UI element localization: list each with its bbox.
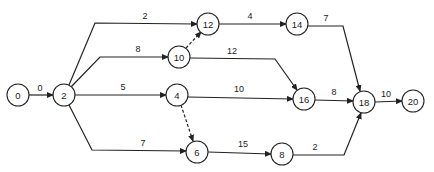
arrow-line bbox=[188, 97, 293, 99]
edge-duration-label: 10 bbox=[381, 89, 391, 99]
node-label: 20 bbox=[408, 96, 419, 107]
edge-duration-label: 8 bbox=[135, 44, 140, 54]
edge-4-16: 10 bbox=[188, 84, 293, 99]
edge-duration-label: 5 bbox=[120, 82, 125, 92]
node-label: 4 bbox=[174, 90, 179, 101]
node-label: 14 bbox=[292, 19, 303, 30]
edge-2-4: 5 bbox=[75, 82, 166, 95]
edge-6-8: 15 bbox=[208, 139, 271, 154]
edge-duration-label: 0 bbox=[37, 83, 42, 93]
node-12: 12 bbox=[197, 13, 219, 35]
arrow-line bbox=[375, 101, 402, 102]
edge-8-18: 2 bbox=[293, 113, 361, 155]
arrow-line bbox=[293, 113, 361, 155]
edge-18-20: 10 bbox=[375, 89, 402, 102]
node-2: 2 bbox=[53, 84, 75, 106]
node-label: 16 bbox=[299, 94, 310, 105]
edge-duration-label: 12 bbox=[227, 46, 237, 56]
edge-2-6: 7 bbox=[69, 105, 186, 151]
node-label: 8 bbox=[279, 149, 284, 160]
node-label: 10 bbox=[174, 52, 185, 63]
edge-12-14: 4 bbox=[219, 11, 286, 24]
node-14: 14 bbox=[286, 13, 308, 35]
arrow-line bbox=[69, 105, 186, 151]
network-diagram: 02857471210810152 02121410416182068 bbox=[0, 0, 434, 172]
nodes-layer: 02121410416182068 bbox=[7, 13, 424, 165]
node-label: 12 bbox=[203, 19, 214, 30]
edge-duration-label: 7 bbox=[140, 138, 145, 148]
edge-0-2: 0 bbox=[29, 83, 53, 95]
edge-duration-label: 2 bbox=[312, 142, 317, 152]
arrow-line bbox=[186, 32, 201, 48]
node-4: 4 bbox=[166, 84, 188, 106]
arrow-line bbox=[181, 105, 193, 141]
edge-duration-label: 4 bbox=[247, 11, 252, 21]
node-8: 8 bbox=[271, 143, 293, 165]
edge-duration-label: 2 bbox=[142, 11, 147, 21]
node-10: 10 bbox=[168, 46, 190, 68]
edge-duration-label: 8 bbox=[331, 87, 336, 97]
edge-16-18: 8 bbox=[315, 87, 353, 101]
node-label: 2 bbox=[61, 90, 66, 101]
node-0: 0 bbox=[7, 84, 29, 106]
edge-4-6 bbox=[181, 105, 193, 141]
edge-duration-label: 7 bbox=[323, 13, 328, 23]
node-18: 18 bbox=[353, 91, 375, 113]
edge-duration-label: 10 bbox=[234, 84, 244, 94]
edge-14-18: 7 bbox=[308, 13, 360, 91]
edge-10-12 bbox=[186, 32, 201, 48]
arrow-line bbox=[315, 100, 353, 101]
node-label: 18 bbox=[359, 97, 370, 108]
node-label: 6 bbox=[194, 147, 199, 158]
arrow-line bbox=[208, 152, 271, 154]
edge-2-10: 8 bbox=[71, 44, 168, 87]
node-6: 6 bbox=[186, 141, 208, 163]
node-label: 0 bbox=[15, 90, 20, 101]
node-16: 16 bbox=[293, 88, 315, 110]
arrow-line bbox=[308, 26, 360, 91]
edge-duration-label: 15 bbox=[238, 139, 248, 149]
node-20: 20 bbox=[402, 90, 424, 112]
